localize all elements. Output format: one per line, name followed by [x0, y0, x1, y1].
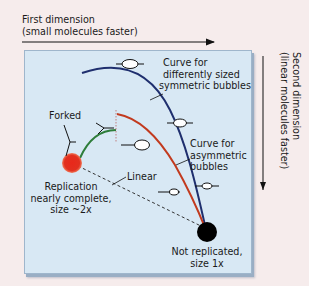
bubble-icon-asym-2: [158, 189, 180, 195]
symmetric-curve-label: Curve for differently sized symmetric bu…: [163, 57, 251, 92]
bubble-icon-sym-mid: [167, 119, 193, 127]
bubble-icon-top: [116, 60, 144, 69]
asymmetric-curve-label-line2: asymmetric: [190, 150, 247, 162]
unreplicated-spot: [197, 222, 217, 242]
forked-molecule-icon-large: [64, 125, 76, 156]
forked-curve: [80, 130, 116, 158]
symmetric-curve-label-line3: symmetric bubbles: [159, 80, 251, 92]
diagram-drawing: [0, 0, 309, 286]
unreplicated-spot-label-line1: Not replicated,: [164, 246, 250, 258]
unreplicated-spot-label: Not replicated, size 1x: [164, 246, 250, 269]
replicated-spot-label-line1: Replication: [28, 181, 114, 193]
unreplicated-spot-label-line2: size 1x: [164, 258, 250, 270]
asymmetric-curve-label: Curve for asymmetric bubbles: [190, 138, 247, 173]
bubble-icon-asym-1: [121, 140, 150, 150]
replicated-spot-label-line3: size ~2x: [28, 204, 114, 216]
replicated-spot-label-line2: nearly complete,: [28, 193, 114, 205]
forked-label: Forked: [49, 110, 81, 122]
replicated-spot-label: Replication nearly complete, size ~2x: [28, 181, 114, 216]
linear-label: Linear: [127, 171, 157, 183]
asymmetric-curve-label-line3: bubbles: [190, 161, 247, 173]
bubble-icon-sym-low: [195, 183, 219, 189]
second-dimension-arrow: [260, 56, 266, 190]
symmetric-curve-label-line1: Curve for: [163, 57, 251, 69]
asymmetric-curve-label-line1: Curve for: [190, 138, 247, 150]
symmetric-curve-label-line2: differently sized: [163, 69, 251, 81]
replicated-spot: [62, 153, 82, 173]
